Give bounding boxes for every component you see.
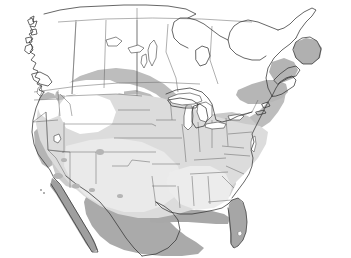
isolated-patch-tx [117,194,123,198]
map-canvas [0,0,351,258]
channel-island-dot-1 [40,189,42,191]
isolated-patch-ut [61,158,67,162]
isolated-patch-nv [53,173,63,179]
isolated-patch-co [96,149,104,155]
channel-island-dot-2 [43,192,45,194]
isolated-patch-az [72,184,80,189]
isolated-patch-nm [89,188,95,192]
map-figure [0,0,351,258]
